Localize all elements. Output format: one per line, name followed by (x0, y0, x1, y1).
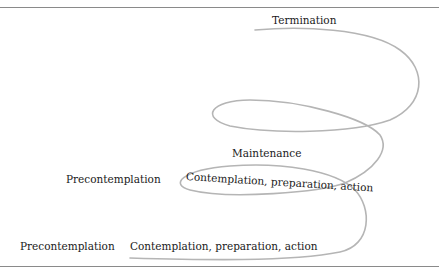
precontemplation-lower-label: Precontemplation (20, 240, 115, 252)
maintenance-label: Maintenance (232, 147, 301, 159)
spiral-path (0, 0, 439, 276)
contemplation-lower-label: Contemplation, preparation, action (130, 240, 318, 252)
termination-label: Termination (272, 14, 336, 26)
precontemplation-upper-label: Precontemplation (66, 173, 161, 185)
bottom-divider (0, 266, 439, 267)
